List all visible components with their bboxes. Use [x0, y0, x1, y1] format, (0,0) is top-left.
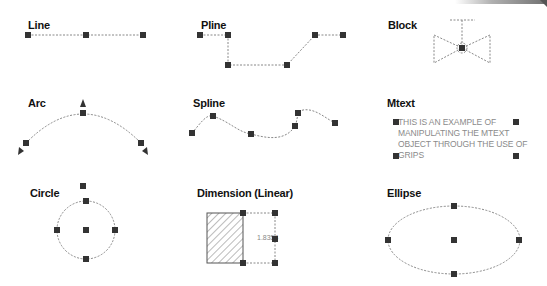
grip: [284, 62, 290, 68]
grip: [272, 210, 278, 216]
grip: [140, 32, 146, 38]
grip: [451, 203, 457, 209]
grip: [513, 153, 519, 159]
grip: [272, 236, 278, 242]
block-object: [434, 20, 490, 63]
grip: [248, 131, 254, 137]
grip: [393, 119, 399, 125]
grip: [80, 110, 86, 116]
arc-object: [26, 114, 141, 143]
pline-object: [200, 35, 343, 65]
grip: [240, 260, 246, 266]
grip: [83, 32, 89, 38]
grip: [189, 130, 195, 136]
grip: [210, 113, 216, 119]
grip: [295, 110, 301, 116]
grip: [54, 227, 60, 233]
arrow-up-icon: [80, 99, 86, 107]
grip: [516, 237, 522, 243]
grip: [83, 256, 89, 262]
drawing-canvas: [0, 0, 547, 286]
grip: [451, 271, 457, 277]
arc-arrows: [18, 99, 148, 155]
grip: [292, 123, 298, 129]
grip: [312, 32, 318, 38]
grip: [197, 32, 203, 38]
grip: [225, 32, 231, 38]
arrow-down-left-icon: [18, 147, 24, 155]
grip: [451, 237, 457, 243]
grip: [240, 210, 246, 216]
grip: [513, 119, 519, 125]
grip: [340, 32, 346, 38]
grip: [272, 260, 278, 266]
grip: [80, 183, 86, 189]
grip: [112, 227, 118, 233]
grip: [23, 140, 29, 146]
grip: [385, 237, 391, 243]
grip: [393, 153, 399, 159]
grip: [332, 120, 338, 126]
grip: [225, 62, 231, 68]
grips: [23, 32, 522, 277]
arrow-down-right-icon: [142, 147, 148, 155]
grip: [25, 32, 31, 38]
grip: [83, 227, 89, 233]
grip: [459, 45, 465, 51]
grip: [138, 140, 144, 146]
grip: [83, 198, 89, 204]
hatched-rectangle: [207, 213, 243, 263]
